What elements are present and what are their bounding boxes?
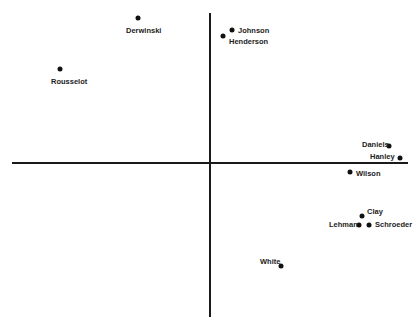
point-johnson bbox=[230, 28, 235, 33]
label-white: White bbox=[260, 258, 280, 266]
point-rousselot bbox=[58, 67, 63, 72]
point-henderson bbox=[221, 34, 226, 39]
label-hanley: Hanley bbox=[370, 153, 395, 161]
label-daniels: Daniels bbox=[362, 141, 389, 149]
point-derwinski bbox=[136, 16, 141, 21]
label-johnson: Johnson bbox=[238, 27, 269, 35]
point-hanley bbox=[398, 156, 403, 161]
label-schroeder: Schroeder bbox=[375, 221, 412, 229]
label-rousselot: Rousselot bbox=[51, 78, 87, 86]
scatter-plot: Derwinski Rousselot Johnson Henderson Da… bbox=[0, 0, 419, 332]
point-clay bbox=[360, 214, 365, 219]
label-derwinski: Derwinski bbox=[126, 27, 161, 35]
label-wilson: Wilson bbox=[356, 170, 381, 178]
point-schroeder bbox=[367, 223, 372, 228]
label-lehman: Lehman bbox=[329, 221, 358, 229]
label-clay: Clay bbox=[367, 208, 383, 216]
label-henderson: Henderson bbox=[229, 38, 268, 46]
y-axis-line bbox=[209, 13, 211, 317]
point-wilson bbox=[348, 170, 353, 175]
